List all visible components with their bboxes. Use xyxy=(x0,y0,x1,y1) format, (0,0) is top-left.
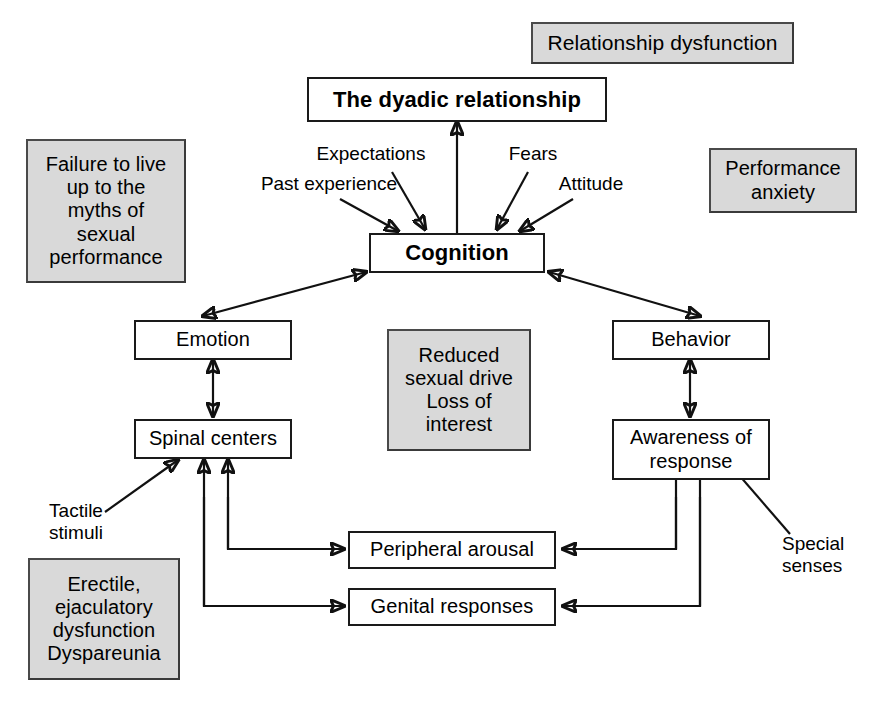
node-awareness-of-response: Awareness of response xyxy=(612,419,770,480)
edge-fears-to-cognition xyxy=(497,172,528,229)
node-peripheral-arousal: Peripheral arousal xyxy=(348,531,556,569)
node-genital-responses: Genital responses xyxy=(348,588,556,626)
gray-box-erectile-dysfunction: Erectile, ejaculatory dysfunction Dyspar… xyxy=(28,558,180,680)
node-emotion: Emotion xyxy=(134,320,292,360)
gray-box-failure-myths: Failure to live up to the myths of sexua… xyxy=(26,139,186,283)
edge-spinal-to-peripheral xyxy=(228,497,344,549)
label-expectations: Expectations xyxy=(306,143,436,165)
edge-spinal-to-genital xyxy=(204,497,344,606)
gray-box-relationship-dysfunction: Relationship dysfunction xyxy=(531,22,794,64)
gray-box-performance-anxiety: Performance anxiety xyxy=(709,148,857,213)
node-cognition: Cognition xyxy=(369,233,545,273)
gray-box-reduced-drive: Reduced sexual drive Loss of interest xyxy=(387,329,531,451)
label-special-senses: Special senses xyxy=(782,533,874,578)
label-past-experience: Past experience xyxy=(248,173,410,195)
node-dyadic-relationship: The dyadic relationship xyxy=(307,77,607,122)
node-spinal-centers: Spinal centers xyxy=(134,419,292,459)
edge-attitude-to-cognition xyxy=(520,199,573,231)
edge-awareness-to-peripheral xyxy=(563,497,676,549)
edge-awareness-to-genital xyxy=(563,497,700,606)
label-attitude: Attitude xyxy=(545,173,637,195)
edge-cognition-emotion xyxy=(203,272,366,316)
label-tactile-stimuli: Tactile stimuli xyxy=(32,500,120,545)
edge-past-experience-to-cognition xyxy=(340,199,398,231)
edge-cognition-behavior xyxy=(549,272,700,316)
label-fears: Fears xyxy=(496,143,570,165)
diagram-canvas: Relationship dysfunction Failure to live… xyxy=(0,0,888,713)
node-behavior: Behavior xyxy=(612,320,770,360)
